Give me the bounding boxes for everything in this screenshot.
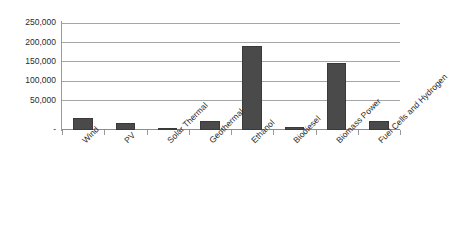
- category-label-geothermal: Geothermal: [207, 107, 245, 145]
- category-label-biodiesel: Biodiesel: [291, 114, 322, 145]
- category-label-pv: PV: [122, 130, 137, 145]
- category-label-ethanol: Ethanol: [249, 118, 276, 145]
- category-label-fuel-cells-and-hydrogen: Fuel Cells and Hydrogen: [376, 72, 449, 145]
- category-label-wind: Wind: [80, 124, 101, 145]
- category-label-solar-thermal: Solar Thermal: [165, 100, 210, 145]
